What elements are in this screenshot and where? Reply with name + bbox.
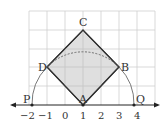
label-p: P xyxy=(23,93,31,106)
label-a: A xyxy=(78,93,88,106)
label-b: B xyxy=(121,61,129,74)
tick-label: −2 xyxy=(20,110,35,121)
label-q: Q xyxy=(136,93,145,106)
tick-label: −1 xyxy=(38,110,53,121)
point-p xyxy=(30,103,33,106)
tick-label: 4 xyxy=(134,110,140,121)
tick-label: 3 xyxy=(116,110,122,121)
tick-label: 2 xyxy=(98,110,104,121)
label-d: D xyxy=(38,61,47,74)
label-c: C xyxy=(79,16,87,29)
tick-label: 1 xyxy=(80,110,86,121)
tick-labels: −2 −1 0 1 2 3 4 xyxy=(20,110,140,121)
tick-label: 0 xyxy=(62,110,68,121)
geometry-diagram: C D B A P Q −2 −1 0 1 2 3 4 xyxy=(0,0,162,128)
